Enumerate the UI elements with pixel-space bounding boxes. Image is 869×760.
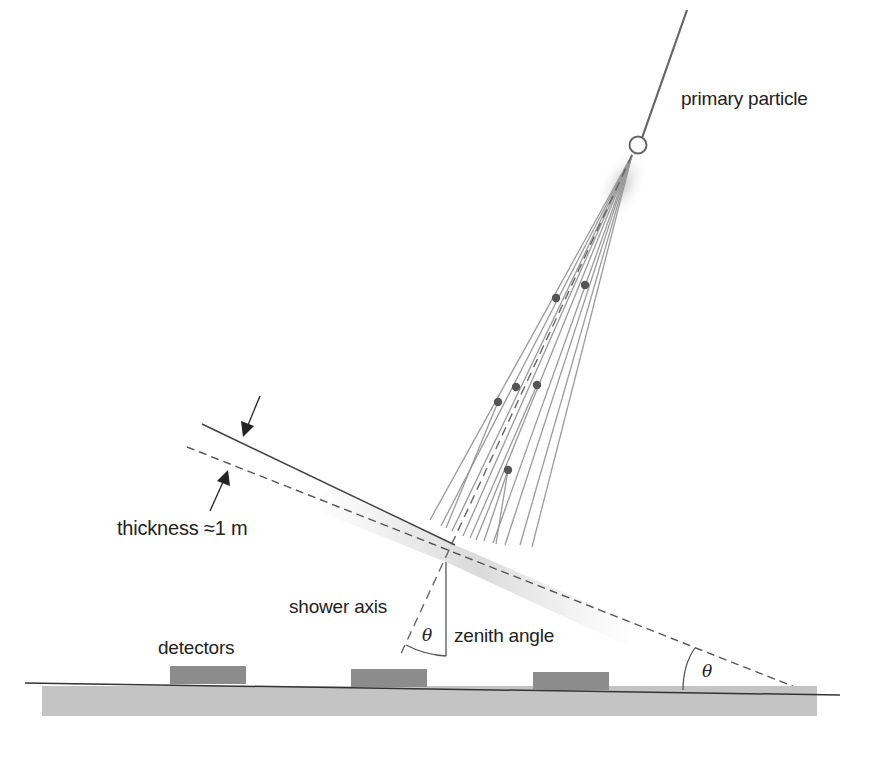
detector-3 [533,672,609,690]
thickness-arrow-top [241,396,260,437]
primary-particle-label: primary particle [681,88,808,110]
particle-dot [552,294,560,302]
particle-dot [512,383,520,391]
shower-front-shading [315,488,640,645]
zenith-theta-symbol: θ [422,625,432,645]
detector-1 [170,666,246,684]
thickness-label: thickness ≈1 m [117,517,247,540]
particle-dot [533,381,541,389]
ground-angle-arc [683,648,695,690]
ground-theta-symbol: θ [702,661,712,681]
zenith-angle-label: zenith angle [454,625,554,647]
primary-particle-icon [630,137,647,154]
particle-dot [494,398,502,406]
zenith-angle-arc [406,645,446,656]
particle-dot [581,281,589,289]
thickness-arrow-bottom [210,470,230,511]
detectors-label: detectors [158,637,234,659]
shower-axis-label: shower axis [289,596,387,618]
shower-tracks [430,155,632,547]
primary-particle-track [642,10,687,138]
particle-dot [504,466,512,474]
detector-2 [351,669,427,687]
ground-bar [42,686,817,716]
air-shower-diagram [0,0,869,760]
